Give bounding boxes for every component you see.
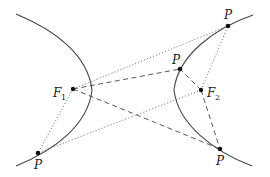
point-p-top-right-label: P bbox=[223, 8, 233, 22]
point-p-top-right bbox=[226, 24, 231, 29]
line-f1-p-bottom-right bbox=[73, 89, 220, 149]
focus-f2-point bbox=[199, 88, 203, 92]
line-f2-p-top-right bbox=[201, 26, 228, 90]
point-p-bottom-left-label: P bbox=[33, 158, 43, 172]
focus-f1-point bbox=[71, 87, 75, 91]
focus-f2-subscript: 2 bbox=[215, 93, 220, 102]
hyperbola-diagram: F 1 F 2 P P P P bbox=[0, 0, 270, 177]
point-p-bottom-right-label: P bbox=[215, 154, 225, 168]
point-p-middle bbox=[178, 67, 183, 72]
point-p-bottom-left bbox=[36, 151, 41, 156]
line-f2-p-middle bbox=[180, 69, 201, 90]
point-p-bottom-right bbox=[218, 147, 223, 152]
focus-f1-subscript: 1 bbox=[61, 93, 66, 102]
point-p-middle-label: P bbox=[171, 53, 181, 67]
line-f1-p-middle bbox=[73, 69, 180, 89]
line-f1-p-top-right bbox=[73, 26, 228, 89]
